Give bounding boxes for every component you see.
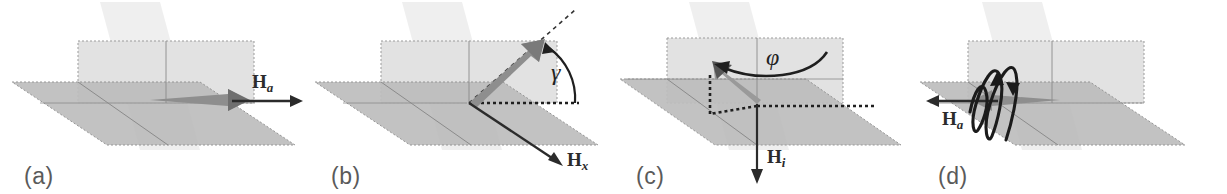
figure-canvas: Ha (a) γ (0, 0, 1227, 194)
film-plane-d (920, 82, 1185, 145)
film-plane-c (620, 79, 901, 145)
panel-d: Ha (d) (920, 0, 1227, 194)
phi-label-c: φ (766, 44, 779, 70)
panel-label-b: (b) (331, 165, 361, 188)
panel-label-a: (a) (24, 165, 54, 188)
panel-a: Ha (a) (0, 0, 307, 194)
field-label-d: Ha (942, 108, 964, 132)
panel-label-c: (c) (636, 165, 664, 188)
gamma-label-b: γ (551, 59, 561, 85)
field-arrowhead-c (751, 169, 763, 184)
panel-b: γ Hx (b) (307, 0, 614, 194)
field-arrowhead-a (290, 95, 303, 107)
field-arrowhead-d (926, 95, 939, 107)
panel-label-d: (d) (938, 165, 968, 188)
field-arrowhead-b (548, 152, 563, 166)
field-label-a: Ha (252, 71, 274, 95)
field-label-b: Hx (567, 149, 589, 173)
panel-c: φ Hi (c) (614, 0, 921, 194)
